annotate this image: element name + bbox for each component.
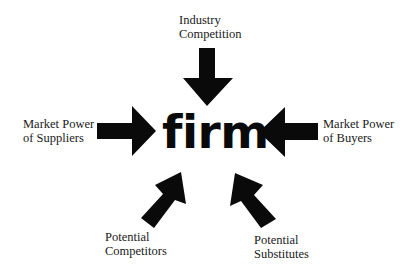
label-industry-competition: Industry Competition	[179, 13, 242, 41]
arrow-right-icon	[97, 106, 156, 156]
label-line: Competitors	[105, 244, 167, 258]
label-suppliers: Market Power of Suppliers	[23, 117, 94, 145]
label-line: Substitutes	[254, 247, 309, 261]
firm-label: firm	[162, 104, 269, 160]
label-line: Market Power	[323, 117, 394, 131]
arrow-down-icon	[183, 48, 233, 106]
label-line: Industry	[179, 13, 242, 27]
arrow-up-left-icon	[230, 173, 276, 228]
five-forces-diagram: firm Industry Competition Market Power o…	[0, 0, 412, 276]
label-potential-competitors: Potential Competitors	[105, 230, 167, 258]
label-line: Market Power	[23, 117, 94, 131]
label-line: Potential	[105, 230, 167, 244]
label-line: of Suppliers	[23, 131, 94, 145]
label-line: Potential	[254, 233, 309, 247]
label-buyers: Market Power of Buyers	[323, 117, 394, 145]
label-line: Competition	[179, 27, 242, 41]
label-potential-substitutes: Potential Substitutes	[254, 233, 309, 261]
label-line: of Buyers	[323, 131, 394, 145]
arrow-up-right-icon	[141, 172, 186, 228]
